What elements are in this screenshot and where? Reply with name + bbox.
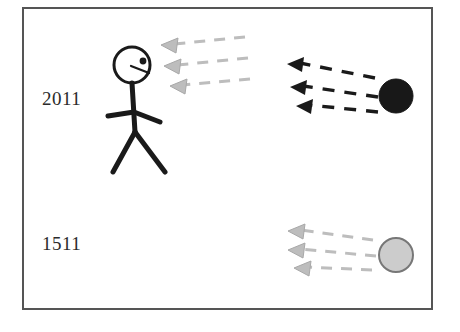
year-label-2011: 2011 <box>42 88 81 110</box>
observer-eye-icon <box>140 58 147 65</box>
year-label-1511: 1511 <box>42 233 81 255</box>
page-background <box>0 0 460 332</box>
dark-source-circle <box>379 79 413 113</box>
light-source-circle <box>379 238 413 272</box>
observer-torso <box>132 83 135 132</box>
observer-head-icon <box>114 47 150 83</box>
diagram-canvas <box>0 0 460 332</box>
